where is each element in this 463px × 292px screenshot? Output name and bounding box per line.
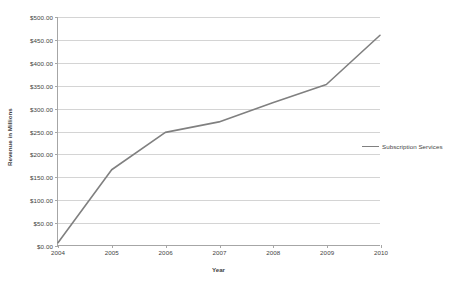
y-axis-tick-label: $150.00	[30, 174, 53, 181]
series-line-subscription-services	[58, 35, 380, 242]
y-axis-tick-label: $500.00	[30, 14, 53, 21]
x-axis-tick-mark	[220, 245, 221, 248]
plot-area: $0.00$50.00$100.00$150.00$200.00$250.00$…	[57, 17, 380, 246]
x-axis-tick-mark	[166, 245, 167, 248]
line-chart: $0.00$50.00$100.00$150.00$200.00$250.00$…	[0, 0, 463, 292]
x-axis-tick-label: 2004	[51, 249, 65, 256]
x-axis-tick-label: 2005	[105, 249, 119, 256]
chart-legend: Subscription Services	[362, 143, 443, 150]
x-axis-tick-label: 2007	[212, 249, 226, 256]
x-axis-tick-mark	[327, 245, 328, 248]
series-plot	[58, 17, 380, 245]
y-axis-tick-label: $50.00	[33, 220, 53, 227]
x-axis-tick-mark	[58, 245, 59, 248]
y-axis-tick-label: $450.00	[30, 36, 53, 43]
y-axis-tick-label: $350.00	[30, 82, 53, 89]
x-axis-tick-mark	[112, 245, 113, 248]
legend-swatch-subscription-services	[362, 146, 379, 147]
x-axis-tick-mark	[381, 245, 382, 248]
y-axis-title: Revenue in Millions	[6, 97, 18, 177]
y-axis-tick-label: $250.00	[30, 128, 53, 135]
y-axis-tick-label: $200.00	[30, 151, 53, 158]
x-axis-tick-label: 2008	[266, 249, 280, 256]
x-axis-tick-label: 2010	[374, 249, 388, 256]
y-axis-tick-label: $400.00	[30, 59, 53, 66]
legend-label-subscription-services: Subscription Services	[382, 143, 443, 150]
y-axis-tick-label: $300.00	[30, 105, 53, 112]
y-axis-tick-label: $100.00	[30, 197, 53, 204]
x-axis-tick-label: 2009	[320, 249, 334, 256]
x-axis-tick-label: 2006	[159, 249, 173, 256]
x-axis-tick-mark	[273, 245, 274, 248]
x-axis-title: Year	[57, 266, 380, 273]
